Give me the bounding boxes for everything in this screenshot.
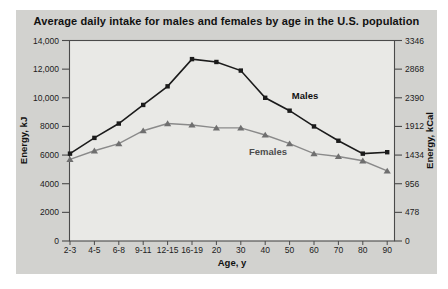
males-marker: [239, 68, 243, 72]
males-series-label: Males: [292, 90, 318, 101]
plot-area: [70, 41, 395, 242]
x-tick-label: 12-15: [157, 245, 179, 255]
y-right-tick-label: 1434: [405, 150, 424, 160]
y-left-tick-label: 2000: [40, 207, 59, 217]
x-tick-label: 90: [382, 245, 392, 255]
y-right-tick-label: 478: [405, 207, 419, 217]
y-right-tick-label: 2868: [405, 64, 424, 74]
females-series-label: Females: [249, 146, 287, 157]
figure-canvas: Average daily intake for males and femal…: [0, 0, 448, 289]
males-marker: [117, 121, 121, 125]
x-tick-label: 40: [260, 245, 270, 255]
x-tick-label: 20: [212, 245, 222, 255]
y-left-tick-label: 6000: [40, 150, 59, 160]
x-tick-label: 2-3: [64, 245, 77, 255]
x-tick-label: 50: [285, 245, 295, 255]
y-left-tick-label: 0: [54, 236, 59, 246]
x-tick-label: 70: [334, 245, 344, 255]
y-left-tick-label: 8000: [40, 121, 59, 131]
males-marker: [263, 96, 267, 100]
x-axis-title: Age, y: [218, 257, 247, 268]
y-axis-title-left: Energy, kJ: [18, 117, 29, 164]
x-tick-label: 9-11: [135, 245, 152, 255]
y-right-tick-label: 2390: [405, 93, 424, 103]
males-marker: [336, 139, 340, 143]
y-left-tick-label: 10,000: [33, 93, 59, 103]
males-marker: [214, 60, 218, 64]
males-marker: [287, 108, 291, 112]
x-tick-label: 6-8: [113, 245, 126, 255]
x-tick-label: 4-5: [88, 245, 101, 255]
chart-plot: 0020004784000956600014348000191210,00023…: [0, 0, 448, 289]
x-tick-label: 80: [358, 245, 368, 255]
males-marker: [190, 57, 194, 61]
males-marker: [312, 124, 316, 128]
males-marker: [92, 136, 96, 140]
y-right-tick-label: 3346: [405, 36, 424, 46]
males-marker: [385, 150, 389, 154]
y-right-tick-label: 0: [405, 236, 410, 246]
y-axis-title-right: Energy, kCal: [424, 112, 435, 169]
y-left-tick-label: 4000: [40, 179, 59, 189]
y-left-tick-label: 14,000: [33, 36, 59, 46]
x-tick-label: 60: [309, 245, 319, 255]
males-marker: [68, 151, 72, 155]
x-tick-label: 16-19: [181, 245, 203, 255]
males-marker: [141, 103, 145, 107]
males-marker: [165, 84, 169, 88]
y-right-tick-label: 1912: [405, 121, 424, 131]
x-tick-label: 30: [236, 245, 246, 255]
males-marker: [361, 151, 365, 155]
y-right-tick-label: 956: [405, 179, 419, 189]
y-left-tick-label: 12,000: [33, 64, 59, 74]
